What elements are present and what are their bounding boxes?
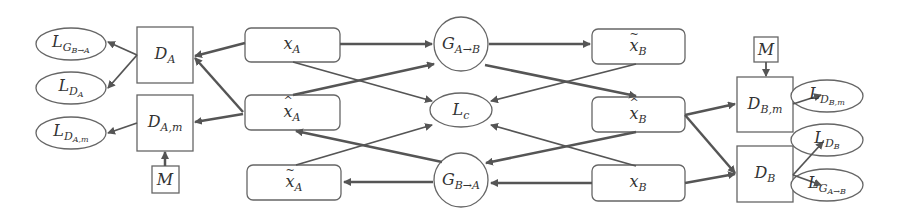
label-xtilde-A: xA	[286, 174, 303, 193]
label-M-A: M	[157, 172, 173, 188]
label-D-Am: DA,m	[148, 114, 183, 133]
label-L-DAm: LDA,m	[53, 123, 88, 144]
label-L-G-AB: LGA→B	[808, 175, 846, 196]
label-G-BA: GB→A	[442, 172, 480, 191]
label-L-G-BA: LGB→A	[52, 34, 90, 55]
label-xhat-A: xA	[284, 104, 301, 123]
label-D-Bm: DB,m	[748, 96, 783, 115]
label-L-DA: LDA	[58, 78, 83, 99]
label-x-A: xA	[284, 36, 301, 55]
label-L-DB: LDB	[814, 130, 839, 151]
label-xtilde-B: xB	[629, 38, 646, 57]
label-xhat-B: xB	[629, 106, 646, 125]
label-M-B: M	[758, 42, 774, 58]
label-D-B: DB	[755, 165, 776, 184]
cyclegan-diagram: LGB→A LDA LDA,m DA DA,m M xA xA xA GA→B …	[0, 0, 924, 218]
label-D-A: DA	[155, 46, 176, 65]
label-G-AB: GA→B	[442, 36, 480, 55]
label-x-B: xB	[629, 174, 646, 193]
label-L-DBm: LDB,m	[809, 86, 844, 107]
label-L-c: Lc	[453, 102, 470, 121]
